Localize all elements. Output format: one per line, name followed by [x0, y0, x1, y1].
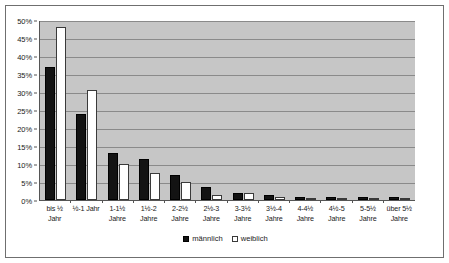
x-axis-category-label: 4-4½Jahre [290, 204, 321, 223]
bar-group [353, 21, 384, 200]
x-axis-label-line: 5-5½ [352, 204, 383, 214]
y-axis-tick-mark [34, 39, 37, 40]
x-axis-category-label: 4½-5Jahre [321, 204, 352, 223]
bar-weiblich[interactable] [400, 198, 410, 200]
legend-swatch-icon [232, 236, 238, 242]
x-axis-label-line: Jahre [384, 214, 415, 224]
chart-inner: 0%5%10%15%20%25%30%35%40%45%50% bis ½Jah… [6, 6, 443, 257]
x-axis-labels: bis ½Jahr½-1 Jahr1-1½Jahre1½-2Jahre2-2½J… [39, 204, 415, 223]
x-axis-category-label: 2-2½Jahre [164, 204, 195, 223]
y-axis-tick-mark [34, 57, 37, 58]
bar-maennlich[interactable] [233, 193, 243, 200]
bar-weiblich[interactable] [212, 195, 222, 200]
x-axis-tick-mark [70, 200, 71, 203]
x-axis-label-line: Jahre [133, 214, 164, 224]
y-axis: 0%5%10%15%20%25%30%35%40%45%50% [6, 21, 37, 201]
y-axis-tick-mark [34, 111, 37, 112]
x-axis-tick-mark [320, 200, 321, 203]
x-axis-category-label: 5-5½Jahre [352, 204, 383, 223]
x-axis-label-line: Jahr [39, 214, 70, 224]
bar-group [259, 21, 290, 200]
x-axis-label-line: 4-4½ [290, 204, 321, 214]
bar-weiblich[interactable] [87, 90, 97, 200]
x-axis-label-line: 2½-3 [196, 204, 227, 214]
y-axis-tick-label: 10% [17, 161, 32, 170]
x-axis-tick-mark [352, 200, 353, 203]
x-axis-label-line: Jahre [102, 214, 133, 224]
x-axis-label-line: Jahre [321, 214, 352, 224]
bar-weiblich[interactable] [244, 193, 254, 200]
bar-weiblich[interactable] [275, 197, 285, 200]
x-axis-tick-mark [133, 200, 134, 203]
chart-frame: 0%5%10%15%20%25%30%35%40%45%50% bis ½Jah… [5, 5, 444, 258]
y-axis-tick-mark [34, 165, 37, 166]
bar-maennlich[interactable] [389, 197, 399, 200]
bar-weiblich[interactable] [337, 198, 347, 200]
x-axis-label-line: ½-1 Jahr [70, 204, 101, 214]
x-axis-category-label: 1½-2Jahre [133, 204, 164, 223]
bar-groups [40, 21, 415, 200]
x-axis-category-label: 3½-4Jahre [258, 204, 289, 223]
bar-weiblich[interactable] [150, 173, 160, 200]
legend-label: weiblich [241, 234, 268, 243]
bar-weiblich[interactable] [306, 198, 316, 200]
x-axis-tick-mark [227, 200, 228, 203]
y-axis-tick-label: 35% [17, 71, 32, 80]
bar-maennlich[interactable] [201, 187, 211, 200]
x-axis-category-label: über 5½Jahre [384, 204, 415, 223]
plot-area [39, 21, 415, 201]
x-axis-label-line: 3½-4 [258, 204, 289, 214]
x-axis-label-line: 3-3½ [227, 204, 258, 214]
y-axis-tick-mark [34, 93, 37, 94]
bar-group [321, 21, 352, 200]
bar-maennlich[interactable] [326, 197, 336, 200]
x-axis-tick-mark [164, 200, 165, 203]
y-axis-tick-mark [34, 21, 37, 22]
x-axis-label-line: 1-1½ [102, 204, 133, 214]
bar-maennlich[interactable] [76, 114, 86, 200]
y-axis-tick-mark [34, 147, 37, 148]
bar-maennlich[interactable] [170, 175, 180, 200]
y-axis-tick-label: 5% [21, 179, 32, 188]
bar-group [165, 21, 196, 200]
bar-group [196, 21, 227, 200]
x-axis-tick-mark [195, 200, 196, 203]
x-axis-tick-mark [102, 200, 103, 203]
y-axis-tick-label: 15% [17, 143, 32, 152]
x-axis-label-line: über 5½ [384, 204, 415, 214]
legend-item[interactable]: weiblich [232, 234, 268, 243]
bar-maennlich[interactable] [108, 153, 118, 200]
legend-item[interactable]: männlich [183, 234, 222, 243]
bar-group [228, 21, 259, 200]
x-axis-label-line: Jahre [352, 214, 383, 224]
legend-label: männlich [192, 234, 222, 243]
bar-maennlich[interactable] [358, 197, 368, 200]
bar-maennlich[interactable] [139, 159, 149, 200]
bar-maennlich[interactable] [45, 67, 55, 200]
bar-weiblich[interactable] [369, 198, 379, 200]
y-axis-tick-label: 30% [17, 89, 32, 98]
bar-weiblich[interactable] [56, 27, 66, 200]
x-axis-category-label: bis ½Jahr [39, 204, 70, 223]
bar-group [134, 21, 165, 200]
bar-weiblich[interactable] [181, 182, 191, 200]
x-axis-label-line: Jahre [290, 214, 321, 224]
bar-weiblich[interactable] [119, 164, 129, 200]
x-axis-label-line: 1½-2 [133, 204, 164, 214]
y-axis-tick-label: 0% [21, 197, 32, 206]
y-axis-tick-mark [34, 201, 37, 202]
legend-swatch-icon [183, 236, 189, 242]
y-axis-tick-label: 20% [17, 125, 32, 134]
bar-maennlich[interactable] [264, 195, 274, 200]
y-axis-tick-mark [34, 129, 37, 130]
chart-legend: männlichweiblich [6, 234, 445, 243]
bar-group [384, 21, 415, 200]
bar-group [40, 21, 71, 200]
bar-maennlich[interactable] [295, 197, 305, 200]
x-axis-category-label: 3-3½Jahre [227, 204, 258, 223]
x-axis-label-line: Jahre [227, 214, 258, 224]
y-axis-tick-label: 50% [17, 17, 32, 26]
y-axis-tick-mark [34, 183, 37, 184]
plot-wrapper [39, 21, 415, 201]
x-axis-label-line: 4½-5 [321, 204, 352, 214]
